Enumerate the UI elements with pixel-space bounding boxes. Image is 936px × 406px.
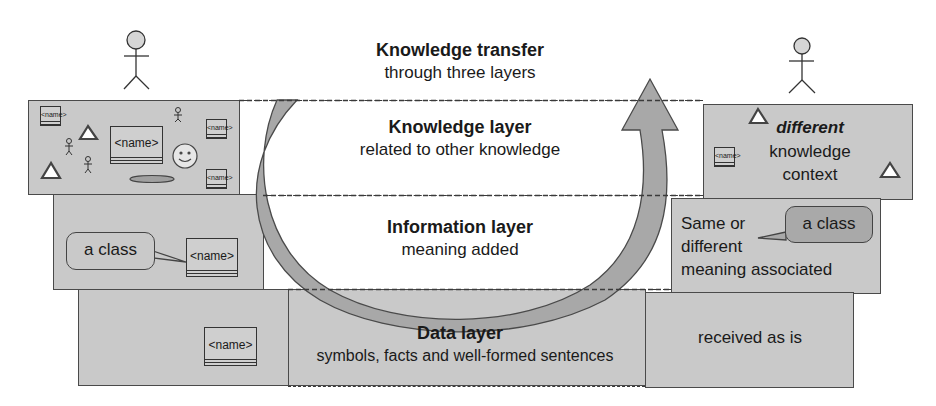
smiley-face-icon (173, 144, 197, 168)
callout-text: a class (803, 214, 856, 233)
receiver-callout-tail (758, 232, 786, 240)
receiver-knowledge-emphasis: different (755, 117, 865, 138)
class-symbol-small: <name> (206, 119, 227, 139)
callout-text: a class (84, 240, 137, 259)
receiver-knowledge-line3: context (755, 164, 865, 185)
class-symbol: <name> (186, 238, 238, 277)
class-symbol-small: <name> (40, 106, 61, 126)
receiver-knowledge-line2: knowledge (755, 141, 865, 162)
receiver-information-line2: different (681, 236, 742, 257)
receiver-person-icon (789, 38, 815, 93)
receiver-data-text: received as is (680, 327, 820, 348)
class-symbol-large: <name> (110, 126, 163, 164)
sender-callout-tail (153, 251, 186, 262)
receiver-information-line1: Same or (681, 213, 745, 234)
receiver-information-line3: meaning associated (681, 259, 832, 280)
sender-person-icon (124, 31, 149, 89)
class-symbol: <name> (204, 327, 257, 366)
ellipse-shape-icon (130, 176, 174, 183)
class-symbol-small: <name> (206, 169, 227, 189)
receiver-class-callout: a class (785, 206, 873, 243)
sender-class-callout: a class (66, 232, 155, 270)
class-symbol-small: <name> (714, 147, 735, 167)
